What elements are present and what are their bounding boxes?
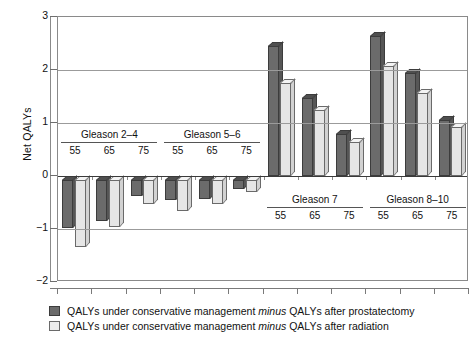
gridline	[58, 229, 467, 230]
y-axis-tick-mark	[50, 281, 57, 282]
y-axis-tick-label: 1	[34, 116, 48, 126]
bar-face	[451, 127, 462, 176]
bar-side	[325, 105, 329, 176]
age-tick-label: 55	[269, 210, 293, 221]
age-tick-label: 55	[166, 145, 190, 156]
bottom-axis-tick	[160, 288, 161, 294]
bar-face	[131, 180, 142, 196]
group-header-rule	[61, 142, 157, 143]
bar-side	[462, 122, 466, 176]
age-tick-label: 65	[97, 145, 121, 156]
group-header-rule	[164, 142, 260, 143]
bar-side	[154, 175, 158, 204]
bar-face	[302, 98, 313, 176]
bottom-axis-tick	[365, 288, 366, 294]
legend-label-prostatectomy: QALYs under conservative management minu…	[67, 305, 414, 317]
chart-legend: QALYs under conservative management minu…	[49, 303, 469, 333]
y-axis-tick-label: 0	[34, 169, 48, 179]
bar-face	[109, 180, 120, 227]
bottom-axis-tick	[263, 288, 264, 294]
group-header-label: Gleason 8–10	[358, 194, 476, 205]
age-tick-label: 75	[132, 145, 156, 156]
bar-face	[165, 180, 176, 200]
bar-face	[417, 93, 428, 176]
group-header-rule	[370, 207, 466, 208]
bar-dark	[199, 176, 210, 199]
bottom-outer-axis	[50, 288, 469, 289]
bar-dark	[233, 176, 244, 189]
plot-area: Gleason 2–4556575Gleason 5–6556575Gleaso…	[57, 16, 468, 281]
age-tick-label: 75	[440, 210, 464, 221]
bar-light	[212, 176, 223, 204]
legend-swatch-prostatectomy	[49, 306, 60, 316]
bar-light	[75, 176, 86, 247]
bar-light	[383, 62, 394, 176]
bottom-axis-tick	[297, 288, 298, 294]
bar-face	[336, 134, 347, 176]
bar-face	[62, 180, 73, 228]
bar-light	[451, 123, 462, 176]
bar-light	[417, 89, 428, 176]
y-axis-tick-mark	[50, 122, 57, 123]
gridline	[58, 70, 467, 71]
bar-face	[349, 142, 360, 176]
bar-light	[109, 176, 120, 227]
bottom-axis-tick	[126, 288, 127, 294]
y-axis-tick-label: 2	[34, 63, 48, 73]
bar-side	[120, 175, 124, 226]
bar-face	[75, 180, 86, 247]
bar-dark	[336, 130, 347, 176]
bar-side	[86, 175, 90, 247]
bar-face	[96, 180, 107, 221]
bar-side	[291, 78, 295, 176]
bar-light	[314, 106, 325, 176]
bar-face	[199, 180, 210, 199]
age-tick-label: 55	[371, 210, 395, 221]
age-tick-label: 65	[200, 145, 224, 156]
gridline	[58, 123, 467, 124]
y-axis-tick-mark	[50, 69, 57, 70]
bar-face	[143, 180, 154, 204]
y-axis-title: Net QALYs	[21, 79, 33, 189]
bottom-axis-tick	[434, 288, 435, 294]
bar-face	[405, 73, 416, 176]
bar-light	[246, 176, 257, 192]
y-axis-tick-label: −2	[34, 275, 48, 285]
y-axis-tick-mark	[50, 228, 57, 229]
bar-face	[212, 180, 223, 204]
bar-dark	[96, 176, 107, 221]
bar-face	[314, 110, 325, 176]
bar-dark	[439, 116, 450, 176]
bar-light	[143, 176, 154, 204]
bottom-axis-tick	[91, 288, 92, 294]
legend-item-prostatectomy: QALYs under conservative management minu…	[49, 303, 469, 318]
age-tick-label: 55	[63, 145, 87, 156]
group-header-label: Gleason 5–6	[152, 129, 272, 140]
age-tick-label: 75	[234, 145, 258, 156]
bar-dark	[165, 176, 176, 200]
bar-face	[383, 66, 394, 176]
bar-dark	[131, 176, 142, 196]
bottom-axis-tick	[57, 288, 58, 294]
bottom-axis-tick	[468, 288, 469, 294]
bar-dark	[370, 32, 381, 176]
age-tick-label: 65	[303, 210, 327, 221]
bar-dark	[302, 94, 313, 176]
bar-side	[223, 175, 227, 204]
bar-side	[360, 137, 364, 176]
bar-face	[439, 120, 450, 176]
bar-face	[246, 180, 257, 192]
y-axis-tick-label: 3	[34, 10, 48, 20]
legend-label-radiation: QALYs under conservative management minu…	[67, 320, 389, 332]
bottom-axis-tick	[228, 288, 229, 294]
bar-light	[349, 138, 360, 176]
zero-line	[58, 176, 467, 177]
bar-face	[268, 46, 279, 176]
bar-side	[394, 62, 398, 176]
y-axis-tick-label: −1	[34, 222, 48, 232]
y-axis-tick-mark	[50, 175, 57, 176]
bar-light	[177, 176, 188, 211]
bar-side	[428, 88, 432, 176]
bar-face	[233, 180, 244, 189]
legend-item-radiation: QALYs under conservative management minu…	[49, 318, 469, 333]
